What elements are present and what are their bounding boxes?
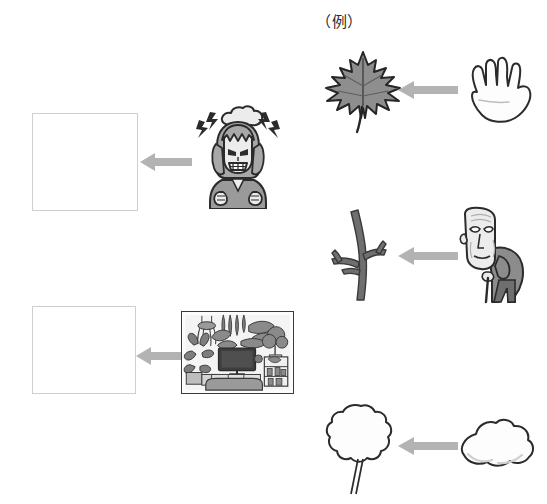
example-label: （例）	[316, 10, 363, 31]
bare-branch-illustration	[318, 206, 404, 302]
angry-woman-illustration	[186, 104, 290, 209]
answer-box-2[interactable]	[32, 306, 136, 394]
left-arrow-icon	[140, 153, 192, 171]
left-arrow-icon	[398, 247, 458, 265]
left-arrow-icon	[398, 437, 458, 455]
old-man-illustration	[455, 206, 539, 304]
left-arrow-icon	[398, 81, 458, 99]
row-4-left-arrow	[398, 434, 458, 458]
row-2-left-arrow	[398, 244, 458, 268]
open-hand-illustration	[461, 52, 539, 126]
row-1-left-arrow	[140, 150, 192, 174]
old-man-icon	[460, 208, 523, 302]
maple-leaf-illustration	[316, 44, 410, 134]
woman-figure-icon	[210, 122, 266, 209]
open-hand-icon	[472, 58, 530, 122]
cloud-illustration	[454, 416, 538, 472]
maple-leaf-icon	[326, 52, 400, 132]
cloud-icon	[462, 420, 533, 466]
plant-room-icon	[182, 312, 292, 393]
worksheet-canvas: （例）	[0, 0, 547, 504]
bare-branch-icon	[332, 210, 386, 300]
answer-box-1[interactable]	[32, 113, 138, 211]
example-row-left-arrow	[398, 78, 458, 102]
indoor-plant-room-illustration	[181, 311, 294, 394]
fluffy-tree-icon	[327, 405, 391, 494]
fluffy-tree-illustration	[325, 402, 397, 496]
